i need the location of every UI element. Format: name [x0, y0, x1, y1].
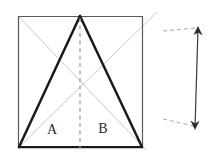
diagonal-tl-br — [19, 17, 146, 150]
dimension-shaft — [195, 28, 198, 128]
region-label-b: B — [98, 121, 107, 136]
geometry-diagram: A B — [0, 0, 211, 163]
region-label-a: A — [47, 122, 58, 137]
figure-canvas: A B — [0, 0, 211, 163]
leader-line-bottom — [163, 119, 194, 126]
height-dimension — [163, 26, 203, 130]
leader-line-top — [163, 28, 196, 31]
